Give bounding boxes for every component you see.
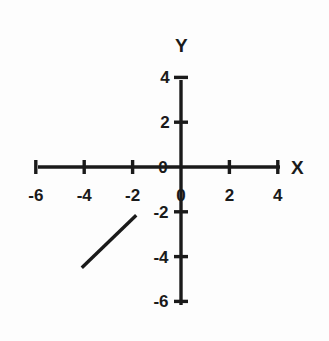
y-axis-tick-label: -6: [153, 293, 168, 310]
ticks-group: [36, 77, 278, 301]
y-axis-tick-label: 4: [160, 69, 169, 86]
data-line-segment: [82, 215, 136, 268]
x-axis-label: X: [291, 158, 304, 177]
x-axis-tick-label-zero: 0: [176, 187, 185, 204]
y-axis-tick-label: -4: [153, 248, 168, 265]
y-axis-tick-label: -2: [153, 203, 168, 220]
x-axis-tick-label: -4: [77, 187, 92, 204]
y-axis-tick-label: 2: [160, 114, 169, 131]
axes-group: [38, 80, 280, 305]
x-axis-tick-label: 4: [273, 187, 282, 204]
y-axis-label: Y: [175, 36, 188, 55]
x-axis-tick-label: 2: [225, 187, 234, 204]
x-axis-tick-label: -2: [125, 187, 140, 204]
x-axis-tick-label: -6: [28, 187, 43, 204]
y-axis-tick-label-zero: 0: [158, 159, 167, 176]
coordinate-plane-figure: Y X -6-4-2024420-2-4-6: [0, 0, 329, 341]
data-series-group: [82, 215, 136, 268]
